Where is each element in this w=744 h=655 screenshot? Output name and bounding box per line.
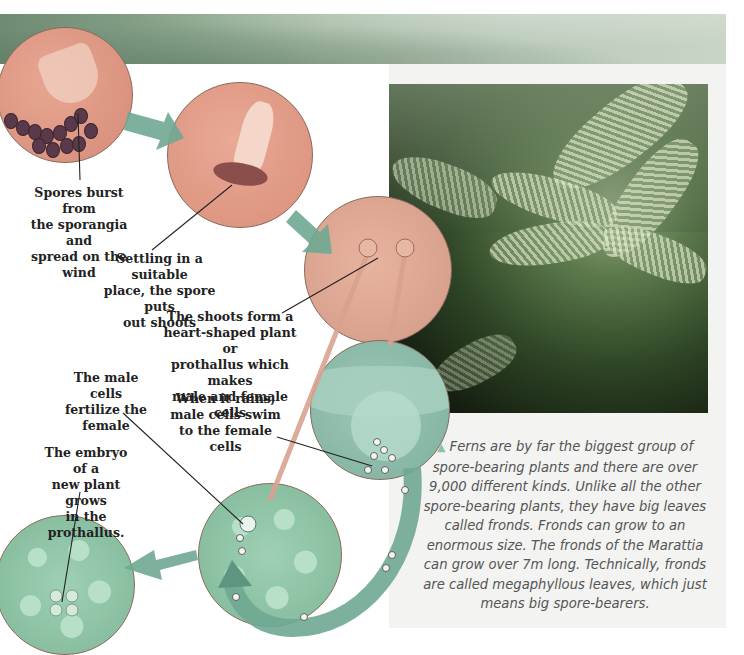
photo-caption: ▲ Ferns are by far the biggest group of …: [415, 437, 715, 614]
curved-arrow-head-icon: [218, 560, 252, 588]
curved-arrow-rain-to-fertilize-icon: [232, 468, 413, 628]
leader-prothallus: [282, 258, 378, 313]
arrow-spores-to-shoot-icon: [124, 112, 184, 150]
leader-settling: [152, 185, 232, 250]
caption-text: Ferns are by far the biggest group of sp…: [423, 439, 707, 611]
caption-triangle-icon: ▲: [437, 441, 445, 454]
label-rain: When it rains, male cells swim to the fe…: [168, 391, 283, 455]
label-fertilize: The male cells fertilize the female: [56, 370, 156, 434]
arrow-shoot-to-prothallus-icon: [286, 210, 332, 254]
arrow-fertilize-to-embryo-icon: [124, 550, 198, 580]
label-embryo: The embryo of a new plant grows in the p…: [36, 445, 136, 541]
stalk-male: [390, 252, 405, 345]
leader-spores: [78, 113, 80, 180]
